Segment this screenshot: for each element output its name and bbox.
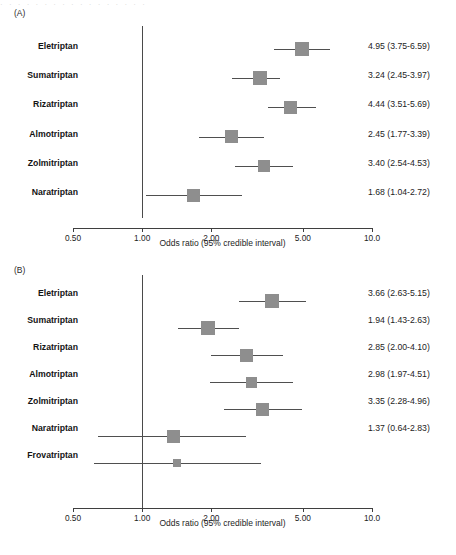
study-value-text: 1.94 (1.43-2.63) xyxy=(368,315,430,325)
x-axis-line xyxy=(73,228,372,229)
study-label: Zolmitriptan xyxy=(28,158,78,168)
point-estimate-marker xyxy=(225,130,238,143)
point-estimate-marker xyxy=(295,42,309,56)
point-estimate-marker xyxy=(256,403,269,416)
point-estimate-marker xyxy=(173,459,181,467)
study-value-text: 1.68 (1.04-2.72) xyxy=(368,187,430,197)
point-estimate-marker xyxy=(253,71,267,85)
point-estimate-marker xyxy=(246,377,257,388)
x-axis-tick-label: 10.0 xyxy=(364,513,380,523)
study-label: Frovatriptan xyxy=(27,450,78,460)
x-axis-tick xyxy=(372,228,373,232)
x-axis-tick xyxy=(73,508,74,512)
x-axis-tick xyxy=(211,508,212,512)
point-estimate-marker xyxy=(187,189,200,202)
reference-line-or-1 xyxy=(142,275,143,509)
study-label: Zolmitriptan xyxy=(28,396,78,406)
study-label: Eletriptan xyxy=(38,288,78,298)
point-estimate-marker xyxy=(284,101,297,114)
study-value-text: 4.44 (3.51-5.69) xyxy=(368,99,430,109)
forest-plot-panel-b: (B)Eletriptan3.66 (2.63-5.15)Sumatriptan… xyxy=(0,255,456,555)
study-label: Sumatriptan xyxy=(27,70,78,80)
point-estimate-marker xyxy=(167,430,180,443)
point-estimate-marker xyxy=(240,349,253,362)
x-axis-line xyxy=(73,508,372,509)
reference-line-or-1 xyxy=(142,26,143,218)
x-axis-title: Odds ratio (95% credible interval) xyxy=(159,238,285,248)
x-axis-title: Odds ratio (95% credible interval) xyxy=(159,518,285,528)
point-estimate-marker xyxy=(258,160,270,172)
study-label: Naratriptan xyxy=(32,423,78,433)
x-axis-tick-label: 0.50 xyxy=(65,513,81,523)
x-axis-tick xyxy=(303,508,304,512)
x-axis-tick xyxy=(73,228,74,232)
study-label: Rizatriptan xyxy=(33,99,78,109)
point-estimate-marker xyxy=(201,321,215,335)
study-value-text: 4.95 (3.75-6.59) xyxy=(368,41,430,51)
study-value-text: 3.24 (2.45-3.97) xyxy=(368,70,430,80)
x-axis-tick xyxy=(211,228,212,232)
plot-area: Eletriptan3.66 (2.63-5.15)Sumatriptan1.9… xyxy=(0,255,456,555)
study-value-text: 3.35 (2.28-4.96) xyxy=(368,396,430,406)
study-value-text: 2.85 (2.00-4.10) xyxy=(368,342,430,352)
study-value-text: 2.45 (1.77-3.39) xyxy=(368,129,430,139)
x-axis-tick xyxy=(142,228,143,232)
forest-plot-panel-a: (A)Eletriptan4.95 (3.75-6.59)Sumatriptan… xyxy=(0,0,456,255)
study-value-text: 2.98 (1.97-4.51) xyxy=(368,369,430,379)
x-axis-tick-label: 1.00 xyxy=(134,233,150,243)
x-axis-tick-label: 0.50 xyxy=(65,233,81,243)
point-estimate-marker xyxy=(265,294,279,308)
x-axis-tick xyxy=(142,508,143,512)
x-axis-tick xyxy=(372,508,373,512)
study-label: Naratriptan xyxy=(32,187,78,197)
study-value-text: 1.37 (0.64-2.83) xyxy=(368,423,430,433)
study-label: Eletriptan xyxy=(38,41,78,51)
x-axis-tick-label: 5.00 xyxy=(295,233,311,243)
study-label: Sumatriptan xyxy=(27,315,78,325)
study-value-text: 3.66 (2.63-5.15) xyxy=(368,288,430,298)
study-label: Rizatriptan xyxy=(33,342,78,352)
x-axis-tick xyxy=(303,228,304,232)
x-axis-tick-label: 5.00 xyxy=(295,513,311,523)
study-value-text: 3.40 (2.54-4.53) xyxy=(368,158,430,168)
study-label: Almotriptan xyxy=(29,129,78,139)
x-axis-tick-label: 1.00 xyxy=(134,513,150,523)
x-axis-tick-label: 10.0 xyxy=(364,233,380,243)
study-label: Almotriptan xyxy=(29,369,78,379)
plot-area: Eletriptan4.95 (3.75-6.59)Sumatriptan3.2… xyxy=(0,0,456,255)
